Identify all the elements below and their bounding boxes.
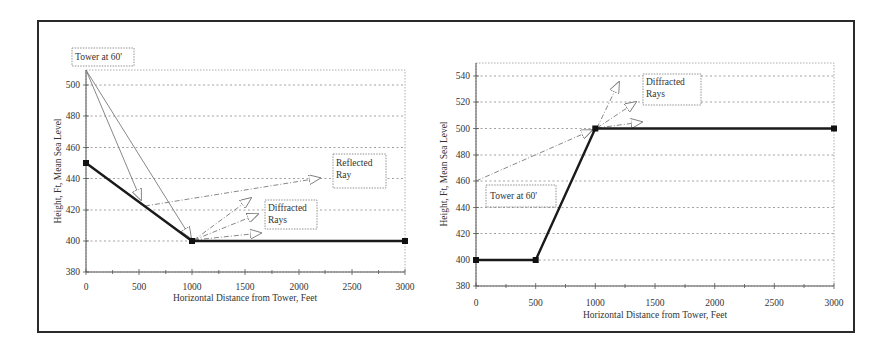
data-marker	[83, 160, 89, 166]
y-tick-label: 540	[456, 71, 471, 81]
data-marker	[189, 238, 195, 244]
x-tick-label: 1000	[183, 282, 202, 292]
incident-ray-to-edge	[86, 70, 191, 238]
reflected-note-line2: Ray	[336, 170, 352, 180]
y-tick-label: 420	[456, 229, 471, 239]
right-rays	[476, 82, 642, 181]
y-tick-label: 380	[456, 281, 471, 291]
left-diffracted-note: Diffracted Rays	[265, 200, 317, 229]
figure-canvas: 380 400 420 440 460 480 500 0 500 1000 1…	[0, 0, 880, 352]
diffracted-ray	[194, 198, 251, 240]
right-y-axis-title: Height, Ft, Mean Sea Level	[439, 121, 449, 226]
x-tick-label: 3000	[825, 298, 844, 308]
left-reflected-note: Reflected Ray	[333, 154, 386, 188]
y-tick-label: 400	[66, 236, 81, 246]
x-tick-label: 3000	[396, 282, 415, 292]
data-marker	[831, 126, 837, 132]
left-y-axis-title: Height, Ft, Mean Sea Level	[53, 118, 63, 223]
y-tick-label: 480	[456, 150, 471, 160]
x-tick-label: 2500	[765, 298, 784, 308]
y-tick-label: 440	[456, 203, 471, 213]
left-y-tick-labels: 380 400 420 440 460 480 500	[66, 80, 81, 277]
x-tick-label: 2000	[705, 298, 724, 308]
x-tick-label: 0	[474, 298, 479, 308]
y-tick-label: 480	[66, 111, 81, 121]
y-tick-label: 520	[456, 97, 471, 107]
left-x-tick-labels: 0 500 1000 1500 2000 2500 3000	[84, 282, 415, 292]
y-tick-label: 380	[66, 267, 81, 277]
right-diffracted-note: Diffracted Rays	[643, 74, 701, 105]
y-tick-label: 500	[456, 124, 471, 134]
incident-ray-to-reflection	[86, 70, 141, 200]
diffracted-note-line1: Diffracted	[268, 203, 307, 213]
diffracted-ray	[194, 233, 261, 240]
right-x-axis-title: Horizontal Distance from Tower, Feet	[583, 310, 727, 320]
x-tick-label: 2500	[343, 282, 362, 292]
tower-note-text: Tower at 60'	[75, 52, 122, 62]
data-marker	[402, 238, 408, 244]
x-tick-label: 500	[132, 282, 147, 292]
x-tick-label: 500	[529, 298, 544, 308]
y-tick-label: 460	[456, 176, 471, 186]
y-tick-label: 420	[66, 205, 81, 215]
left-tower-note: Tower at 60'	[72, 48, 134, 66]
left-x-axis-title: Horizontal Distance from Tower, Feet	[173, 293, 317, 303]
right-x-tick-labels: 0 500 1000 1500 2000 2500 3000	[474, 298, 844, 308]
x-tick-label: 0	[84, 282, 89, 292]
right-chart: 380 400 420 440 460 480 500 520 540 0 50…	[439, 63, 844, 320]
y-tick-label: 400	[456, 255, 471, 265]
left-chart: 380 400 420 440 460 480 500 0 500 1000 1…	[53, 48, 415, 303]
x-tick-label: 1500	[646, 298, 665, 308]
diffracted-note-line2: Rays	[268, 215, 287, 225]
diffracted-ray	[597, 122, 642, 128]
right-y-tick-labels: 380 400 420 440 460 480 500 520 540	[456, 71, 471, 291]
x-tick-label: 1000	[586, 298, 605, 308]
diffracted-ray	[194, 214, 258, 240]
diffracted-note-line1: Diffracted	[646, 77, 685, 87]
right-tower-note: Tower at 60'	[486, 185, 556, 207]
y-tick-label: 460	[66, 143, 81, 153]
x-tick-label: 1500	[236, 282, 255, 292]
data-marker	[533, 257, 539, 263]
data-marker	[592, 126, 598, 132]
y-tick-label: 440	[66, 174, 81, 184]
diffracted-note-line2: Rays	[646, 89, 665, 99]
tower-note-text: Tower at 60'	[490, 191, 537, 201]
y-tick-label: 500	[66, 80, 81, 90]
x-tick-label: 2000	[290, 282, 309, 292]
reflected-note-line1: Reflected	[336, 158, 373, 168]
data-marker	[473, 257, 479, 263]
